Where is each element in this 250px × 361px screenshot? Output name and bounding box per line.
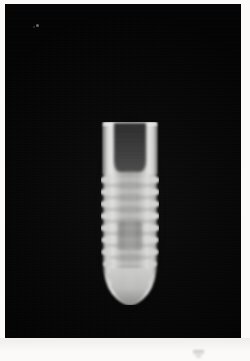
radiographic-film-field [5, 4, 241, 338]
paper-shading [0, 338, 250, 361]
implant-internal-chamber [114, 123, 146, 172]
film-speck [36, 24, 39, 27]
implant-core-streak [125, 172, 135, 290]
dental-implant [101, 122, 159, 305]
margin-mark-tail [196, 354, 201, 358]
film-speck-secondary [33, 26, 35, 28]
radiograph-viewport: Endosseous threaded dental implant Denta… [0, 0, 250, 361]
implant-radiograph-shape [101, 122, 159, 305]
